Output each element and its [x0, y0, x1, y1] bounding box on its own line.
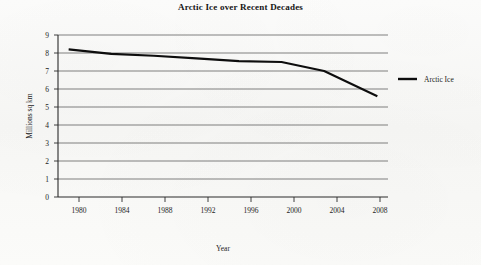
- y-tick-label-0: 0: [45, 193, 49, 202]
- legend-label-arctic-ice: Arctic Ice: [424, 75, 454, 84]
- gridlines: [58, 35, 388, 179]
- y-tick-marks: [54, 35, 58, 197]
- x-tick-label-2000: 2000: [287, 206, 302, 215]
- y-tick-label-1: 1: [45, 175, 49, 184]
- x-tick-label-1980: 1980: [72, 206, 87, 215]
- x-tick-label-1984: 1984: [115, 206, 130, 215]
- legend: Arctic Ice: [398, 75, 454, 84]
- y-tick-label-9: 9: [45, 31, 49, 40]
- x-axis-title: Year: [216, 244, 230, 253]
- y-tick-label-8: 8: [45, 49, 49, 58]
- y-axis-title: Millions sq km: [25, 93, 34, 139]
- y-tick-label-4: 4: [45, 121, 49, 130]
- y-tick-label-6: 6: [45, 85, 49, 94]
- x-tick-label-1992: 1992: [201, 206, 216, 215]
- chart-container: Arctic Ice over Recent Decades: [0, 0, 481, 265]
- x-tick-label-2008: 2008: [373, 206, 388, 215]
- x-tick-label-2004: 2004: [330, 206, 345, 215]
- x-tick-label-1988: 1988: [158, 206, 173, 215]
- y-tick-label-7: 7: [45, 67, 49, 76]
- x-tick-marks: [79, 197, 380, 202]
- y-tick-label-2: 2: [45, 157, 49, 166]
- x-tick-label-1996: 1996: [244, 206, 259, 215]
- chart-plot-area: 9 8 7 6 5 4 3 2 1 0 1980 1984 1988 1992 …: [0, 0, 481, 265]
- y-tick-label-5: 5: [45, 103, 49, 112]
- y-tick-label-3: 3: [45, 139, 49, 148]
